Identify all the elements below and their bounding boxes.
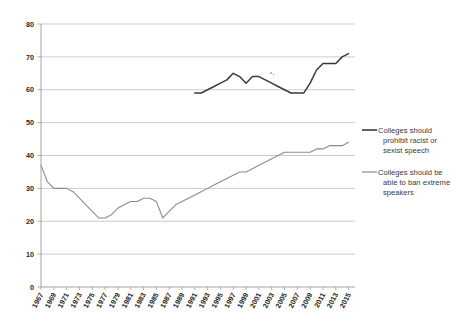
- x-tick-label: 1993: [197, 291, 212, 309]
- x-tick-label: 1995: [209, 291, 224, 309]
- x-tick-label: 1997: [222, 291, 237, 309]
- gridlines: [41, 24, 355, 254]
- x-tick-label: 1973: [68, 291, 83, 309]
- x-tick-label: 2001: [248, 291, 263, 309]
- series-line-ban-speakers: [41, 142, 349, 218]
- y-tick-label: 30: [26, 184, 34, 193]
- x-tick-label: 2015: [337, 291, 352, 309]
- chart-container: 01020304050607080 1967196919711973197519…: [0, 0, 466, 332]
- x-tick-label: 1999: [235, 291, 250, 309]
- artifact-speck: [273, 74, 274, 75]
- y-tick-label: 60: [26, 85, 34, 94]
- y-tick-label: 70: [26, 53, 34, 62]
- x-tick-label: 2009: [299, 291, 314, 309]
- y-tick-label: 20: [26, 217, 34, 226]
- x-tick-label: 2007: [286, 291, 301, 309]
- legend-label: sexist speech: [383, 146, 429, 155]
- x-tick-label: 2013: [325, 291, 340, 309]
- legend-label: able to ban extreme: [383, 178, 450, 187]
- x-tick-label: 1979: [107, 291, 122, 309]
- artifact-speck: [270, 72, 272, 74]
- x-tick-label: 2005: [273, 291, 288, 309]
- x-tick-label: 1975: [81, 291, 96, 309]
- y-tick-label: 80: [26, 20, 34, 29]
- x-tick-label: 1971: [56, 291, 71, 309]
- x-tick-label: 1991: [184, 291, 199, 309]
- x-tick-label: 1985: [145, 291, 160, 309]
- x-tick-label: 1977: [94, 291, 109, 309]
- y-tick-label: 0: [30, 283, 34, 292]
- legend-label: Colleges should: [378, 126, 432, 135]
- x-tick-label: 1987: [158, 291, 173, 309]
- y-tick-label: 40: [26, 151, 34, 160]
- y-tick-label: 10: [26, 250, 34, 259]
- x-tick-label: 1969: [43, 291, 58, 309]
- line-chart: 01020304050607080 1967196919711973197519…: [0, 0, 466, 332]
- legend-label: prohibit racist or: [383, 136, 437, 145]
- x-tick-label: 1983: [132, 291, 147, 309]
- y-axis-tick-labels: 01020304050607080: [26, 20, 41, 292]
- x-tick-label: 2003: [261, 291, 276, 309]
- series-lines: [41, 54, 349, 218]
- x-tick-label: 1989: [171, 291, 186, 309]
- x-tick-label: 1981: [120, 291, 135, 309]
- x-axis-tick-labels: 1967196919711973197519771979198119831985…: [30, 287, 353, 310]
- x-tick-label: 1967: [30, 291, 45, 309]
- legend-label: Colleges should be: [378, 168, 443, 177]
- chart-legend: Colleges shouldprohibit racist orsexist …: [362, 126, 450, 197]
- legend-label: speakers: [383, 188, 414, 197]
- y-tick-label: 50: [26, 118, 34, 127]
